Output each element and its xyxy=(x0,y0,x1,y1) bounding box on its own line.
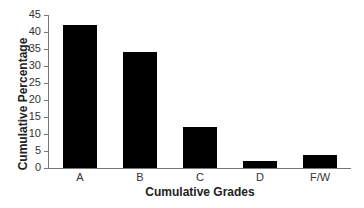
y-tick-label: 15 xyxy=(17,110,41,122)
y-tick-mark xyxy=(44,168,48,169)
x-tick-label: F/W xyxy=(300,171,340,183)
y-tick-label: 5 xyxy=(17,144,41,156)
y-tick-mark xyxy=(44,151,48,152)
y-tick-mark xyxy=(44,15,48,16)
y-tick-label: 20 xyxy=(17,93,41,105)
y-tick-mark xyxy=(44,117,48,118)
x-tick-label: A xyxy=(60,171,100,183)
x-tick-label: C xyxy=(180,171,220,183)
y-axis-line xyxy=(48,15,49,169)
bar-chart: Cumulative Percentage Cumulative Grades … xyxy=(0,0,364,208)
x-axis-label: Cumulative Grades xyxy=(145,185,254,199)
x-axis-line xyxy=(48,168,351,169)
bar-d xyxy=(243,161,277,168)
y-tick-label: 40 xyxy=(17,25,41,37)
y-tick-label: 10 xyxy=(17,127,41,139)
x-tick-label: B xyxy=(120,171,160,183)
y-tick-mark xyxy=(44,49,48,50)
y-tick-label: 25 xyxy=(17,76,41,88)
bar-a xyxy=(63,25,97,168)
bar-b xyxy=(123,52,157,168)
y-tick-label: 35 xyxy=(17,42,41,54)
y-tick-mark xyxy=(44,134,48,135)
y-tick-label: 45 xyxy=(17,8,41,20)
y-tick-mark xyxy=(44,32,48,33)
x-tick-label: D xyxy=(240,171,280,183)
y-tick-label: 0 xyxy=(17,161,41,173)
y-tick-label: 30 xyxy=(17,59,41,71)
bar-c xyxy=(183,127,217,168)
bar-f-w xyxy=(303,155,337,168)
y-tick-mark xyxy=(44,83,48,84)
y-tick-mark xyxy=(44,100,48,101)
y-tick-mark xyxy=(44,66,48,67)
